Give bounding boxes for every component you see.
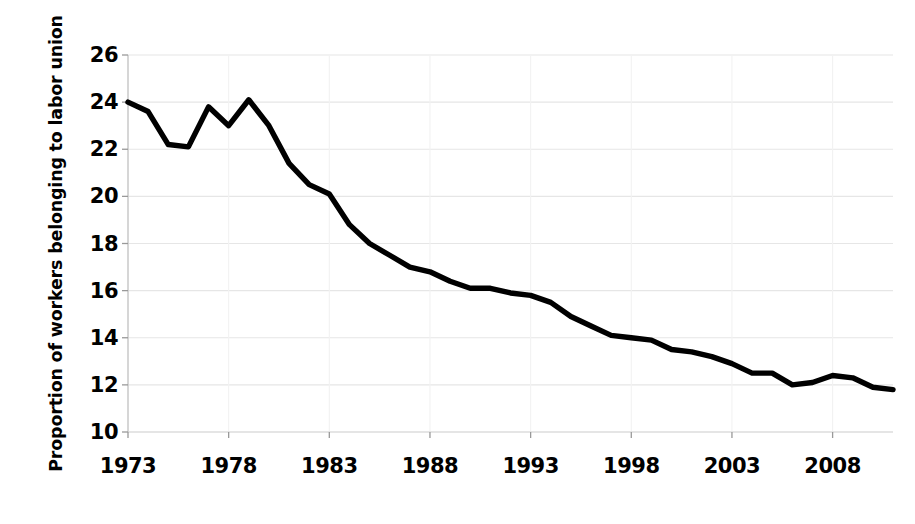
union-membership-line-chart: Proportion of workers belonging to labor… [0, 0, 915, 524]
y-axis-tick-marks [122, 55, 128, 432]
plot-area [0, 0, 915, 524]
data-series-line [128, 100, 893, 390]
x-axis-tick-marks [128, 432, 833, 438]
